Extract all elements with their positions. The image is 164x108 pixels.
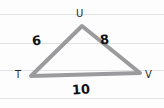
side-length-uv: 8 bbox=[99, 33, 109, 47]
vertex-label-t: T bbox=[15, 70, 21, 80]
side-length-tu: 6 bbox=[31, 34, 41, 48]
triangle-outline bbox=[31, 26, 140, 76]
vertex-label-v: V bbox=[145, 70, 152, 80]
side-length-tv: 10 bbox=[72, 82, 91, 96]
vertex-label-u: U bbox=[76, 9, 83, 19]
figure-canvas: U T V 6 8 10 bbox=[0, 0, 164, 108]
